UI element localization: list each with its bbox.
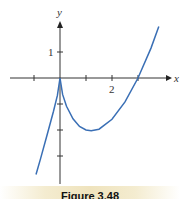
y-axis-label: y: [56, 6, 62, 18]
x-tick-label-2: 2: [109, 83, 115, 95]
x-axis-label: x: [173, 72, 179, 84]
y-tick-label-1: 1: [48, 46, 54, 58]
x-axis-arrow-icon: [166, 75, 172, 81]
function-curve: [36, 27, 159, 175]
chart-figure: x y 2 1 Figure 3.48: [0, 0, 180, 199]
y-axis-arrow-icon: [57, 21, 63, 28]
figure-caption: Figure 3.48: [0, 186, 180, 199]
plot-area: x y 2 1: [0, 0, 180, 199]
